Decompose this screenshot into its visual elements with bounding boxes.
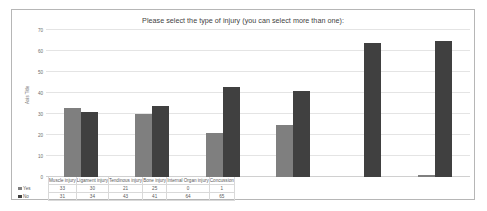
bar-no (293, 91, 310, 177)
y-axis-tick-label: 60 (38, 49, 43, 54)
y-axis-tick-label: 20 (38, 133, 43, 138)
bar-yes (64, 108, 81, 177)
bar-no (152, 106, 169, 177)
data-cell: 21 (108, 185, 142, 193)
bar-group (329, 30, 400, 177)
bar-group (399, 30, 470, 177)
data-cell: 34 (76, 193, 108, 201)
data-cell: 31 (49, 193, 77, 201)
category-label: Concussion (209, 177, 234, 185)
y-axis-title: Axis Title (25, 86, 30, 104)
data-cell: 41 (143, 193, 167, 201)
y-axis-tick-label: 50 (38, 70, 43, 75)
category-label: Tendinous injury (108, 177, 142, 185)
category-label: Internal Organ injury (167, 177, 210, 185)
chart-container: Please select the type of injury (you ca… (11, 9, 475, 200)
y-axis-tick-label: 40 (38, 91, 43, 96)
category-label: Bone injury (143, 177, 167, 185)
data-cell: 30 (76, 185, 108, 193)
bar-no (223, 87, 240, 177)
data-cell: 0 (167, 185, 210, 193)
bar-group (117, 30, 188, 177)
category-label: Ligament injury (76, 177, 108, 185)
y-axis-tick-label: 30 (38, 112, 43, 117)
data-cell: 25 (143, 185, 167, 193)
chart-title: Please select the type of injury (you ca… (12, 16, 474, 25)
table-row: Yes3330212501 (16, 185, 234, 193)
legend-label: Yes (23, 186, 31, 191)
data-cell: 43 (108, 193, 142, 201)
table-row: Muscle injuryLigament injuryTendinous in… (16, 177, 234, 185)
chart-data-table: Muscle injuryLigament injuryTendinous in… (16, 177, 235, 201)
bar-group (46, 30, 117, 177)
data-cell: 33 (49, 185, 77, 193)
bar-group (187, 30, 258, 177)
bar-series-group (46, 30, 470, 177)
bar-yes (418, 175, 435, 177)
data-cell: 1 (209, 185, 234, 193)
bar-group (258, 30, 329, 177)
bar-no (435, 41, 452, 178)
bar-no (364, 43, 381, 177)
bar-no (81, 112, 98, 177)
legend-item-no: No (16, 193, 49, 201)
bar-yes (276, 125, 293, 178)
data-cell: 64 (167, 193, 210, 201)
plot-area: 010203040506070 (46, 30, 470, 177)
table-row: No313443416465 (16, 193, 234, 201)
data-cell: 65 (209, 193, 234, 201)
y-axis-tick-label: 10 (38, 154, 43, 159)
legend-label: No (23, 194, 29, 199)
bar-yes (135, 114, 152, 177)
y-axis-tick-label: 70 (38, 28, 43, 33)
bar-yes (206, 133, 223, 177)
legend-swatch-icon (18, 187, 22, 191)
legend-item-yes: Yes (16, 185, 49, 193)
table-corner-cell (16, 177, 49, 185)
category-label: Muscle injury (49, 177, 77, 185)
legend-swatch-icon (18, 195, 22, 199)
